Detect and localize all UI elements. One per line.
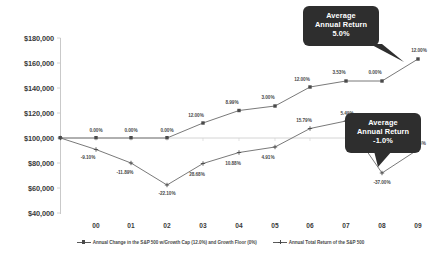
callout-line-3: 5.0% — [307, 29, 375, 38]
y-tick-label: $180,000 — [6, 34, 54, 43]
data-label-capped: 12.00% — [404, 48, 434, 53]
x-tick-label: 03 — [191, 222, 215, 229]
legend-item-sp500: Annual Total Return of the S&P 500 — [273, 239, 365, 245]
callout-average-return-capped: Average Annual Return 5.0% — [303, 6, 379, 46]
x-tick-label: 07 — [334, 222, 358, 229]
x-tick-label: 06 — [298, 222, 322, 229]
legend-cross-marker-icon — [273, 239, 287, 245]
chart-container: $180,000 $160,000 $140,000 $120,000 $100… — [0, 0, 441, 262]
callout-line-3: -1.0% — [349, 136, 417, 145]
data-label-sp500: 10.88% — [218, 161, 248, 166]
y-tick-label: $60,000 — [6, 184, 54, 193]
callout-line-1: Average — [349, 118, 417, 127]
data-label-sp500: 4.91% — [254, 155, 282, 160]
callout-line-2: Annual Return — [349, 127, 417, 136]
data-label-capped: 0.00% — [153, 128, 181, 133]
y-tick-label: $80,000 — [6, 159, 54, 168]
legend-square-marker-icon — [77, 239, 91, 245]
data-label-sp500: 28.68% — [182, 172, 212, 177]
data-label-capped: 0.00% — [361, 70, 389, 75]
data-label-sp500: -37.00% — [366, 180, 398, 185]
legend-item-capped: Annual Change in the S&P 500 w/Growth Ca… — [77, 239, 257, 245]
x-tick-label: 08 — [370, 222, 394, 229]
y-tick-marks — [57, 38, 61, 213]
callout-average-return-sp500: Average Annual Return -1.0% — [345, 113, 421, 153]
y-tick-label: $140,000 — [6, 84, 54, 93]
chart-legend: Annual Change in the S&P 500 w/Growth Ca… — [0, 239, 441, 245]
y-tick-label: $100,000 — [6, 134, 54, 143]
x-tick-label: 02 — [155, 222, 179, 229]
data-label-sp500: -11.89% — [110, 170, 140, 175]
data-label-capped: 3.00% — [254, 95, 282, 100]
legend-label-sp500: Annual Total Return of the S&P 500 — [289, 240, 365, 245]
x-tick-label: 00 — [84, 222, 108, 229]
data-label-sp500: -22.10% — [152, 191, 182, 196]
y-tick-label: $40,000 — [6, 209, 54, 218]
x-tick-label: 04 — [227, 222, 251, 229]
callout-line-2: Annual Return — [307, 20, 375, 29]
data-label-sp500: -9.10% — [74, 155, 102, 160]
y-tick-label: $120,000 — [6, 109, 54, 118]
x-tick-label: 01 — [119, 222, 143, 229]
data-label-sp500: 15.79% — [289, 118, 319, 123]
callout-line-1: Average — [307, 11, 375, 20]
data-label-capped: 3.53% — [325, 70, 353, 75]
x-tick-label: 05 — [263, 222, 287, 229]
legend-label-capped: Annual Change in the S&P 500 w/Growth Ca… — [93, 240, 257, 245]
y-tick-label: $160,000 — [6, 59, 54, 68]
data-label-capped: 0.00% — [117, 128, 145, 133]
x-tick-label: 09 — [406, 222, 430, 229]
data-label-capped: 0.00% — [82, 128, 110, 133]
data-label-capped: 12.00% — [182, 113, 210, 118]
data-label-capped: 8.99% — [218, 100, 246, 105]
callout-top-tail — [370, 44, 404, 62]
data-label-capped: 12.00% — [288, 77, 316, 82]
